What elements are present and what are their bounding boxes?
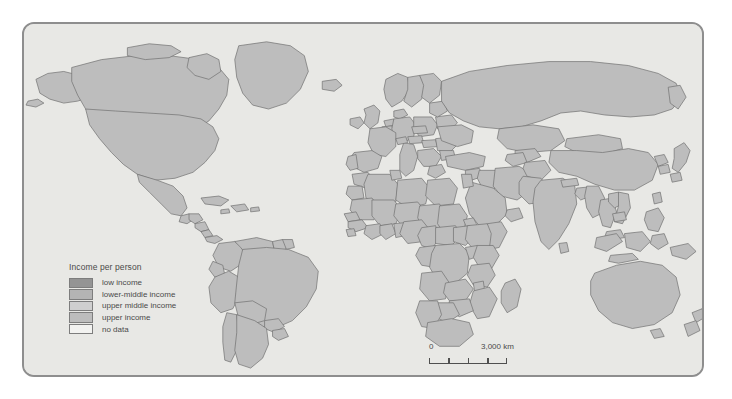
country-tunisia[interactable] xyxy=(390,170,402,180)
legend-item-no-data[interactable]: no data xyxy=(69,323,176,335)
map-frame: Income per person low income lower-middl… xyxy=(22,22,704,377)
legend-label-no-data: no data xyxy=(102,325,129,334)
legend-item-upper-income[interactable]: upper income xyxy=(69,312,176,324)
country-austria[interactable] xyxy=(408,136,424,144)
country-jamaica[interactable] xyxy=(221,209,230,214)
legend-swatch-upper-income xyxy=(69,312,93,323)
legend-item-lower-middle-income[interactable]: lower-middle income xyxy=(69,289,176,301)
legend-label-low-income: low income xyxy=(102,278,142,287)
legend-title: Income per person xyxy=(69,262,176,272)
scalebar-labels: 0 3,000 km xyxy=(429,342,534,354)
legend-swatch-no-data xyxy=(69,324,93,335)
country-nepal[interactable] xyxy=(561,178,579,187)
scalebar-ruler xyxy=(429,355,507,364)
legend-swatch-low-income xyxy=(69,278,93,289)
map-scalebar: 0 3,000 km xyxy=(429,342,534,364)
country-sierra-leone[interactable] xyxy=(346,229,356,237)
country-cambodia[interactable] xyxy=(613,212,627,222)
country-taiwan[interactable] xyxy=(652,192,662,204)
scalebar-zero-label: 0 xyxy=(429,342,433,351)
scalebar-tick-2 xyxy=(468,358,469,364)
scalebar-tick-3 xyxy=(487,358,488,364)
scalebar-max-label: 3,000 km xyxy=(481,342,514,351)
legend-swatch-lower-middle-income xyxy=(69,289,93,300)
legend-item-upper-middle-income[interactable]: upper middle income xyxy=(69,300,176,312)
country-czechia[interactable] xyxy=(412,126,428,134)
map-legend: Income per person low income lower-middl… xyxy=(69,262,176,335)
legend-swatch-upper-middle-income xyxy=(69,301,93,312)
scalebar-tick-4 xyxy=(506,358,507,364)
country-israel-jordan[interactable] xyxy=(461,174,473,188)
legend-item-low-income[interactable]: low income xyxy=(69,277,176,289)
country-south-korea[interactable] xyxy=(658,164,670,174)
legend-label-upper-income: upper income xyxy=(102,313,150,322)
scalebar-tick-1 xyxy=(448,358,449,364)
scalebar-tick-0 xyxy=(429,358,430,364)
country-puerto-rico[interactable] xyxy=(251,207,260,212)
country-hungary[interactable] xyxy=(422,140,438,148)
legend-label-lower-middle-income: lower-middle income xyxy=(102,290,175,299)
country-sri-lanka[interactable] xyxy=(559,243,569,254)
legend-label-upper-middle-income: upper middle income xyxy=(102,301,176,310)
country-japan-south[interactable] xyxy=(670,172,682,182)
